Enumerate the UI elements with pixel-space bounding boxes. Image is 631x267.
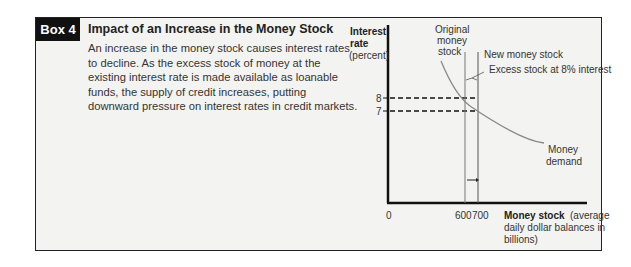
x-axis-unit-3: billions): [504, 234, 538, 245]
x-axis-unit-1: (average: [570, 210, 610, 221]
label-demand-1: Money: [548, 144, 578, 155]
x-tick-600: 600: [455, 210, 472, 221]
x-axis-unit-2: daily dollar balances in: [504, 222, 605, 233]
x-tick-0: 0: [386, 210, 392, 221]
label-excess: Excess stock at 8% interest: [489, 64, 611, 75]
y-tick-8: 8: [376, 93, 382, 104]
x-tick-700: 700: [472, 210, 489, 221]
y-axis-label-1: Interest: [350, 26, 387, 37]
y-tick-7: 7: [376, 106, 382, 117]
money-stock-chart: Interest rate (percent) 8 7 Original mon…: [0, 0, 631, 267]
label-original-3: stock: [438, 46, 462, 57]
label-original-2: money: [437, 35, 467, 46]
y-axis-unit: (percent): [349, 50, 389, 61]
label-original-1: Original: [435, 24, 469, 35]
x-axis-label: Money stock: [504, 210, 565, 221]
label-demand-2: demand: [546, 156, 582, 167]
label-new-stock: New money stock: [484, 49, 564, 60]
y-axis-label-2: rate: [350, 38, 369, 49]
